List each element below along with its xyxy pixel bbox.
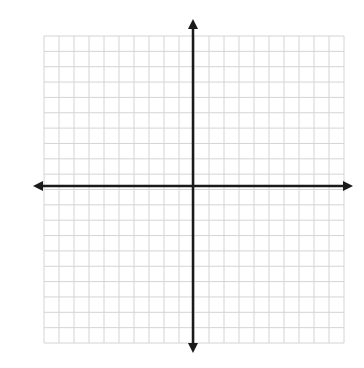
arrow-down-icon xyxy=(188,343,198,353)
arrow-left-icon xyxy=(33,181,43,191)
coordinate-plane xyxy=(0,0,364,368)
arrow-right-icon xyxy=(343,181,353,191)
arrow-up-icon xyxy=(188,19,198,29)
